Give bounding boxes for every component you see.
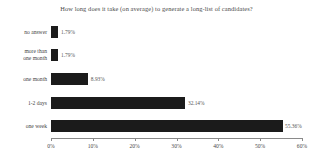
x-axis-tick-label: 10%: [88, 143, 98, 150]
bar-row: no answer 1.79%: [51, 20, 302, 44]
chart-title: How long does it take (on average) to ge…: [0, 5, 313, 13]
category-label-line1: one month: [23, 76, 47, 82]
bar-row: one week 55.36%: [51, 114, 302, 138]
x-axis-tick-label: 30%: [171, 143, 181, 150]
category-label: more than one month: [1, 49, 47, 62]
bar-value-label: 8.93%: [91, 76, 105, 82]
category-label: 1-2 days: [1, 99, 47, 106]
bar-wrapper: 1.79%: [51, 49, 75, 61]
bar-chart-figure: How long does it take (on average) to ge…: [0, 0, 313, 164]
bar-value-label: 32.14%: [188, 100, 205, 106]
category-label-line2: one month: [23, 55, 47, 61]
x-axis-tick-label: 60%: [297, 143, 307, 150]
x-axis-tick-mark: [93, 139, 94, 141]
category-label: one month: [1, 76, 47, 83]
bar: [51, 26, 58, 38]
bar: [51, 73, 88, 85]
x-axis-tick-mark: [51, 139, 52, 141]
bar-row: 1-2 days 32.14%: [51, 91, 302, 115]
category-label: no answer: [1, 29, 47, 36]
category-label-line1: no answer: [24, 29, 47, 35]
category-label-line1: 1-2 days: [28, 99, 47, 105]
x-axis-tick-mark: [260, 139, 261, 141]
category-label: one week: [1, 123, 47, 130]
bar: [51, 97, 185, 109]
bar-row: more than one month 1.79%: [51, 44, 302, 68]
x-axis-tick-mark: [135, 139, 136, 141]
category-label-line1: one week: [26, 123, 47, 129]
bar: [51, 120, 283, 132]
x-axis-tick-label: 50%: [255, 143, 265, 150]
bar: [51, 49, 58, 61]
x-axis-tick-label: 40%: [213, 143, 223, 150]
bar-wrapper: 32.14%: [51, 97, 205, 109]
category-label-line1: more than: [24, 49, 47, 55]
x-axis-tick-mark: [302, 139, 303, 141]
x-axis-tick-labels: 0%10%20%30%40%50%60%: [51, 139, 303, 161]
x-axis-tick-label: 0%: [47, 143, 54, 150]
bar-wrapper: 55.36%: [51, 120, 302, 132]
bar-value-label: 1.79%: [61, 29, 75, 35]
plot-area: no answer 1.79% more than one month 1.79…: [51, 20, 302, 138]
bar-wrapper: 1.79%: [51, 26, 75, 38]
bar-value-label: 55.36%: [285, 123, 302, 129]
x-axis-tick-label: 20%: [130, 143, 140, 150]
x-axis-tick-mark: [177, 139, 178, 141]
x-axis-tick-mark: [218, 139, 219, 141]
bar-value-label: 1.79%: [61, 52, 75, 58]
bar-row: one month 8.93%: [51, 67, 302, 91]
bar-wrapper: 8.93%: [51, 73, 105, 85]
